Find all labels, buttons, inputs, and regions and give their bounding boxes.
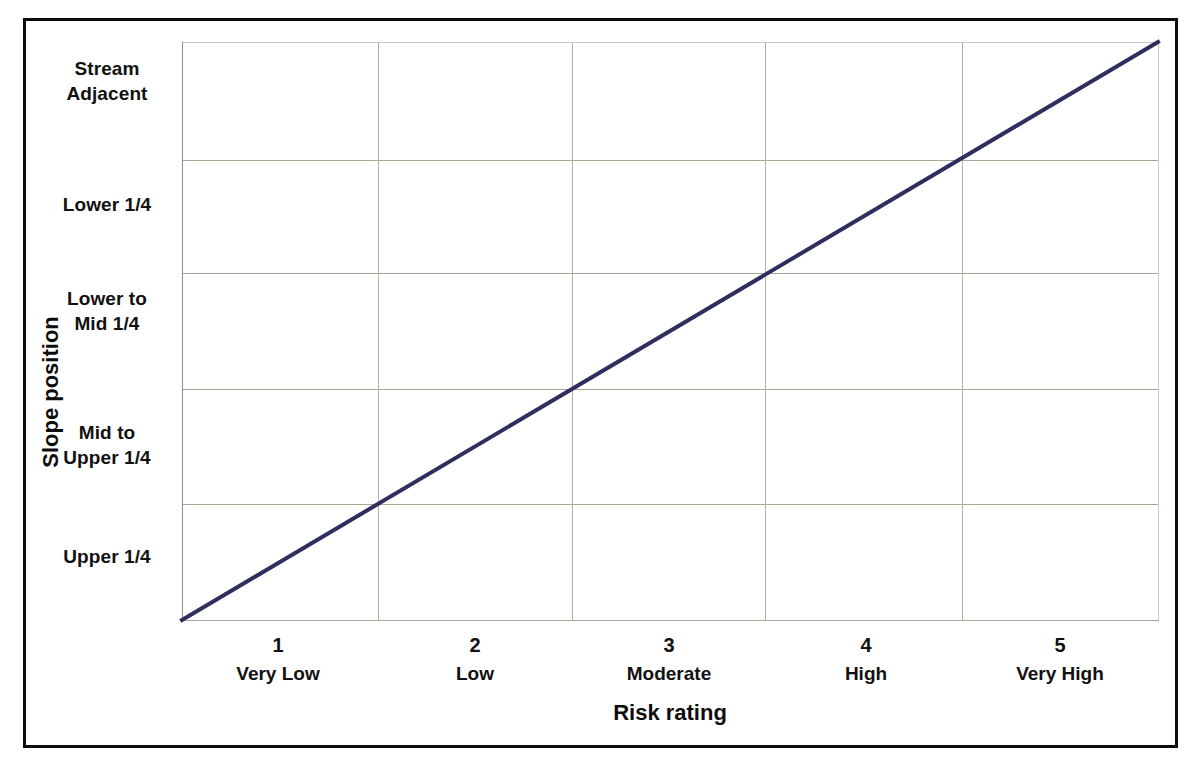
gridline-vertical-2 xyxy=(572,42,573,620)
y-tick-line-1: Stream xyxy=(32,56,182,81)
x-tick-label-high: 4 High xyxy=(771,634,961,687)
y-tick-label-lower-to-mid-quarter: Lower to Mid 1/4 xyxy=(32,286,182,336)
gridline-horizontal-3 xyxy=(182,389,1158,390)
x-tick-number: 4 xyxy=(771,634,961,657)
x-tick-label-moderate: 3 Moderate xyxy=(574,634,764,687)
y-tick-label-stream-adjacent: Stream Adjacent xyxy=(32,56,182,106)
x-axis-line xyxy=(181,620,1159,621)
plot-right-edge xyxy=(1158,42,1159,622)
x-tick-name: High xyxy=(771,662,961,687)
y-tick-line-2: Adjacent xyxy=(32,81,182,106)
y-tick-line-1: Lower 1/4 xyxy=(32,192,182,217)
x-axis-title: Risk rating xyxy=(182,700,1158,726)
x-tick-label-low: 2 Low xyxy=(380,634,570,687)
gridline-vertical-1 xyxy=(378,42,379,620)
gridline-vertical-4 xyxy=(962,42,963,620)
gridline-horizontal-2 xyxy=(182,273,1158,274)
x-tick-name: Very Low xyxy=(183,662,373,687)
x-tick-name: Moderate xyxy=(574,662,764,687)
y-tick-line-2: Upper 1/4 xyxy=(32,445,182,470)
gridline-vertical-3 xyxy=(765,42,766,620)
plot-top-edge xyxy=(182,42,1159,43)
y-tick-line-1: Upper 1/4 xyxy=(32,544,182,569)
x-tick-label-very-low: 1 Very Low xyxy=(183,634,373,687)
y-tick-line-1: Mid to xyxy=(32,420,182,445)
gridline-horizontal-1 xyxy=(182,160,1158,161)
x-tick-number: 2 xyxy=(380,634,570,657)
x-tick-number: 1 xyxy=(183,634,373,657)
y-tick-label-upper-quarter: Upper 1/4 xyxy=(32,544,182,569)
x-tick-name: Low xyxy=(380,662,570,687)
x-tick-name: Very High xyxy=(965,662,1155,687)
x-tick-number: 5 xyxy=(965,634,1155,657)
chart-figure: Slope position Stream Adjacent Lower 1/4… xyxy=(0,0,1194,764)
gridline-horizontal-4 xyxy=(182,504,1158,505)
x-tick-number: 3 xyxy=(574,634,764,657)
y-tick-line-1: Lower to xyxy=(32,286,182,311)
plot-area xyxy=(182,42,1158,620)
y-tick-label-lower-quarter: Lower 1/4 xyxy=(32,192,182,217)
x-tick-label-very-high: 5 Very High xyxy=(965,634,1155,687)
y-tick-label-mid-to-upper-quarter: Mid to Upper 1/4 xyxy=(32,420,182,470)
y-tick-line-2: Mid 1/4 xyxy=(32,311,182,336)
y-axis-line xyxy=(182,42,183,622)
